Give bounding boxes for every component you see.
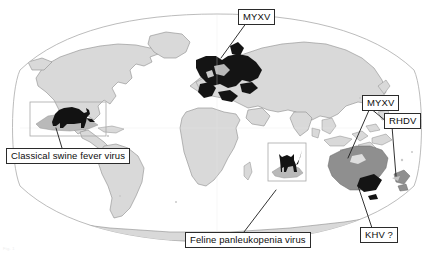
callout-classical-swine-fever-virus[interactable]: Classical swine fever virus	[6, 148, 130, 164]
callout-myxv-australia[interactable]: MYXV	[362, 95, 399, 111]
callout-khv[interactable]: KHV ?	[360, 227, 398, 243]
callout-feline-panleukopenia-virus[interactable]: Feline panleukopenia virus	[185, 232, 311, 248]
world-map	[0, 0, 434, 255]
figure-credit: Fig. 1	[3, 246, 15, 251]
figure-root: MYXV MYXV RHDV KHV ? Classical swine fev…	[0, 0, 434, 255]
callout-rhdv[interactable]: RHDV	[384, 113, 421, 129]
callout-myxv-europe[interactable]: MYXV	[238, 9, 275, 25]
